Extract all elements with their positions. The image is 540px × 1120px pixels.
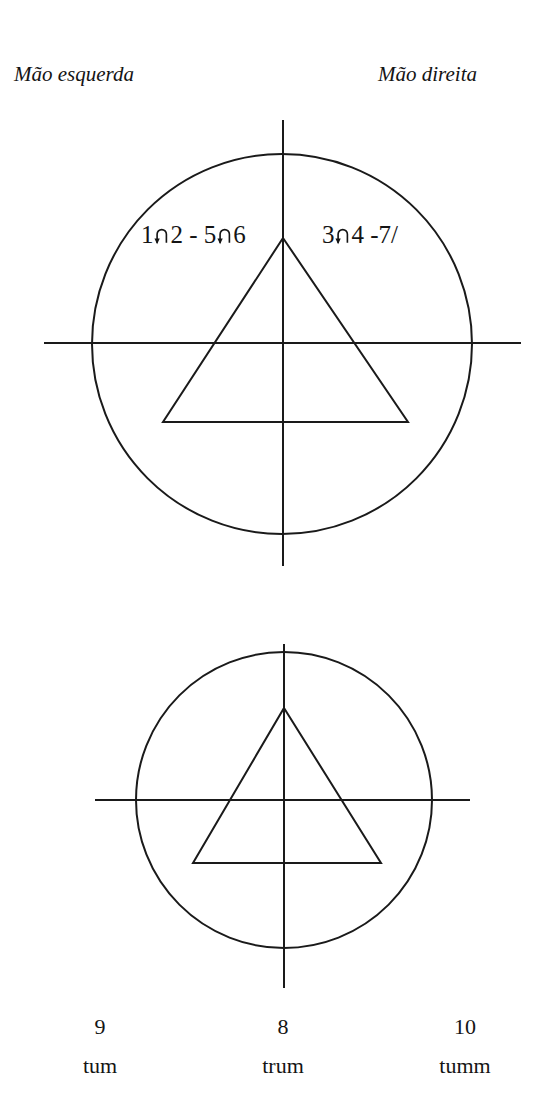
annotation-left-hand: 1 2 - 5 6 [141, 222, 246, 247]
syllable-number: 8 [223, 1016, 343, 1038]
top-figure-triangle [163, 238, 408, 422]
figures-canvas [0, 0, 540, 1120]
syllable-word: tum [40, 1055, 160, 1077]
syllable-column-right: 10 tumm [405, 1016, 525, 1077]
bottom-figure [95, 644, 470, 988]
annotation-left-token-1: 1 [141, 221, 154, 248]
arc-arrow-down-icon [335, 225, 351, 245]
annotation-right-token-1: 3 [322, 221, 335, 248]
syllable-number: 9 [40, 1016, 160, 1038]
diagram-page: Mão esquerda Mão direita 1 2 - 5 [0, 0, 540, 1120]
annotation-right-token-2: 4 -7/ [352, 221, 399, 248]
arc-arrow-down-icon [154, 225, 170, 245]
arc-arrow-down-icon [217, 225, 233, 245]
annotation-right-hand: 3 4 -7/ [322, 222, 398, 247]
top-figure [44, 120, 521, 566]
syllable-column-center: 8 trum [223, 1016, 343, 1077]
bottom-figure-triangle [193, 708, 381, 863]
syllable-number: 10 [405, 1016, 525, 1038]
syllable-word: trum [223, 1055, 343, 1077]
annotation-left-token-3: 6 [233, 221, 246, 248]
annotation-left-token-2: 2 - 5 [171, 221, 217, 248]
syllable-column-left: 9 tum [40, 1016, 160, 1077]
syllable-word: tumm [405, 1055, 525, 1077]
